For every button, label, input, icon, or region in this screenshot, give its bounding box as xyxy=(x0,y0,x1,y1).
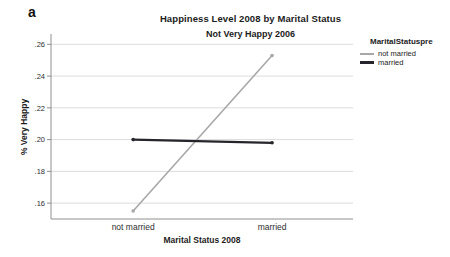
svg-text:married: married xyxy=(258,222,287,232)
svg-text:.22: .22 xyxy=(35,104,45,113)
legend-item-label: not married xyxy=(378,49,416,58)
svg-text:.18: .18 xyxy=(35,167,45,176)
svg-text:.20: .20 xyxy=(35,135,45,144)
svg-text:not married: not married xyxy=(112,222,155,232)
legend: MaritalStatuspre not married married xyxy=(360,37,433,67)
legend-line-swatch xyxy=(360,61,374,64)
svg-text:.26: .26 xyxy=(35,40,45,49)
legend-item: married xyxy=(360,58,433,67)
svg-text:.24: .24 xyxy=(35,72,45,81)
svg-text:.16: .16 xyxy=(35,199,45,208)
legend-title: MaritalStatuspre xyxy=(370,37,433,46)
legend-item: not married xyxy=(360,49,433,58)
x-axis-title: Marital Status 2008 xyxy=(51,235,353,245)
legend-line-swatch xyxy=(360,53,374,55)
figure: a Happiness Level 2008 by Marital Status… xyxy=(0,0,450,257)
legend-item-label: married xyxy=(378,58,403,67)
